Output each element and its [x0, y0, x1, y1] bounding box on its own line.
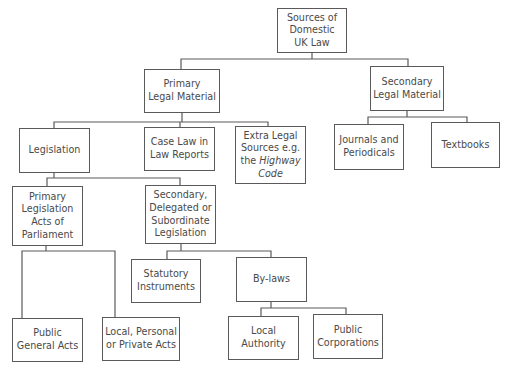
node-public-general-acts: Public General Acts — [12, 318, 83, 362]
node-sources-of-domestic-uk-law: Sources of Domestic UK Law — [277, 8, 347, 53]
connector-line — [22, 246, 115, 318]
node-label: Local Authority — [241, 325, 285, 350]
node-label: Statutory Instruments — [137, 268, 195, 293]
node-label: Case Law in Law Reports — [150, 136, 209, 161]
node-label: Public General Acts — [17, 327, 78, 352]
node-by-laws: By-laws — [236, 257, 307, 302]
node-statutory-instruments: Statutory Instruments — [131, 259, 201, 303]
node-secondary-legal-material: Secondary Legal Material — [370, 66, 444, 111]
node-textbooks: Textbooks — [431, 122, 500, 168]
node-extra-legal-sources: Extra Legal Sources e.g. the Highway Cod… — [235, 126, 306, 184]
node-local-authority: Local Authority — [228, 316, 299, 360]
node-journals-and-periodicals: Journals and Periodicals — [334, 124, 404, 170]
node-label: Public Corporations — [317, 324, 379, 349]
connector-lines — [0, 0, 511, 369]
node-label: Journals and Periodicals — [339, 134, 398, 159]
node-primary-legislation: Primary Legislation Acts of Parliament — [12, 186, 83, 246]
node-label: Secondary, Delegated or Subordinate Legi… — [149, 189, 211, 239]
node-label: Secondary Legal Material — [373, 76, 441, 101]
node-label: Primary Legal Material — [148, 78, 216, 103]
node-label: Textbooks — [442, 139, 490, 152]
node-legislation: Legislation — [19, 128, 90, 173]
node-label: Extra Legal Sources e.g. the Highway Cod… — [240, 130, 300, 180]
node-label: Primary Legislation Acts of Parliament — [22, 191, 74, 241]
node-label-italic: Highway Code — [258, 155, 300, 179]
node-label: By-laws — [253, 273, 290, 286]
diagram-canvas: Sources of Domestic UK Law Primary Legal… — [0, 0, 511, 369]
node-case-law: Case Law in Law Reports — [144, 127, 215, 171]
node-public-corporations: Public Corporations — [313, 314, 383, 359]
node-secondary-legislation: Secondary, Delegated or Subordinate Legi… — [145, 185, 216, 244]
node-label: Legislation — [29, 144, 81, 157]
node-label: Local, Personal or Private Acts — [105, 326, 177, 351]
node-label: Sources of Domestic UK Law — [287, 12, 337, 50]
node-local-personal-private-acts: Local, Personal or Private Acts — [102, 317, 180, 361]
node-primary-legal-material: Primary Legal Material — [144, 69, 220, 113]
